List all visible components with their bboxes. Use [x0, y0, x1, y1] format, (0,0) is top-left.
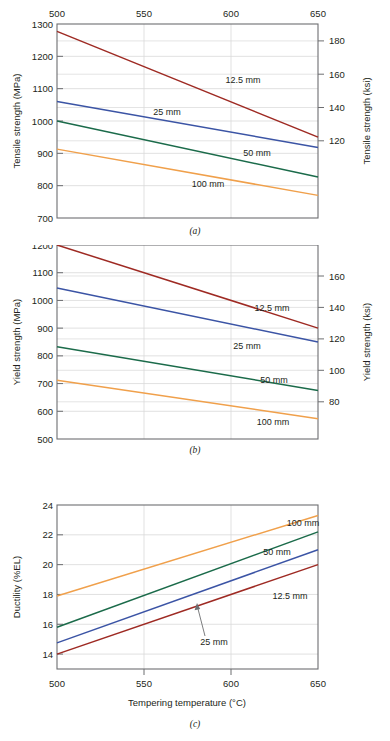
grid-horizontal-b [57, 273, 318, 412]
series-line-100mm [57, 149, 318, 195]
y2axis-ticks-b [318, 276, 324, 402]
y-tick-label: 900 [37, 323, 53, 334]
x-tick-label: 550 [136, 678, 152, 689]
chart-panel-b: 1200 1100 1000 900 800 700 600 500 160 1… [0, 245, 390, 493]
series-line-50mm [57, 121, 318, 177]
y2-tick-label: 80 [329, 396, 340, 407]
y2-tick-label: 120 [329, 135, 345, 146]
y2axis-ticks-a [318, 41, 324, 141]
y-tick-label: 1300 [32, 19, 53, 30]
y-tick-label: 22 [42, 529, 53, 540]
x-tick-label: 500 [49, 8, 65, 19]
series-label-25mm: 25 mm [233, 341, 261, 351]
y2-tick-label: 140 [329, 102, 345, 113]
series-label-50mm: 50 mm [263, 547, 291, 557]
series-label-100mm: 100 mm [192, 179, 225, 189]
series-label-12-5mm: 12.5 mm [272, 591, 307, 601]
chart-c-svg: 24 22 20 18 16 14 500 550 600 650 Ductil… [0, 493, 390, 741]
y2-axis-title: Yield strength (ksi) [361, 303, 372, 381]
y-tick-label: 800 [37, 180, 53, 191]
series-label-50mm: 50 mm [243, 148, 271, 158]
panel-caption-b: (b) [0, 445, 390, 455]
chart-b-svg: 1200 1100 1000 900 800 700 600 500 160 1… [0, 245, 390, 493]
plot-frame-c [57, 505, 318, 669]
y-tick-label: 1000 [32, 295, 53, 306]
y-tick-label: 1200 [32, 51, 53, 62]
chart-panel-a: 1300 1200 1100 1000 900 800 700 180 160 … [0, 0, 390, 245]
x-tick-label: 600 [223, 8, 239, 19]
y2-tick-label: 160 [329, 271, 345, 282]
y-tick-label: 16 [42, 619, 53, 630]
y-tick-label: 600 [37, 406, 53, 417]
panel-caption-a: (a) [0, 226, 390, 236]
y-axis-title: Ductility (%EL) [11, 556, 22, 618]
chart-a-svg: 1300 1200 1100 1000 900 800 700 180 160 … [0, 0, 390, 245]
grid-vertical-b [144, 245, 231, 439]
x-tick-label: 600 [223, 678, 239, 689]
series-label-12-5mm: 12.5 mm [225, 75, 260, 85]
y2-tick-label: 120 [329, 333, 345, 344]
series-label-25mm: 25 mm [153, 107, 181, 117]
y-tick-label: 500 [37, 434, 53, 445]
annotation-arrow-25mm [195, 603, 205, 636]
y-tick-label: 700 [37, 378, 53, 389]
y-tick-label: 1200 [32, 245, 53, 251]
y-tick-label: 24 [42, 500, 53, 511]
series-label-25mm: 25 mm [200, 637, 228, 647]
y-tick-label: 700 [37, 213, 53, 224]
y2-tick-label: 180 [329, 35, 345, 46]
series-label-50mm: 50 mm [260, 375, 288, 385]
y-axis-title: Yield strength (MPa) [11, 299, 22, 385]
panel-caption-c: (c) [0, 719, 390, 729]
series-line-12-5mm [57, 565, 318, 654]
x-tick-label: 650 [310, 678, 326, 689]
x-tick-label: 500 [49, 678, 65, 689]
grid-right-a [57, 41, 318, 141]
y-tick-label: 1100 [33, 267, 53, 278]
x-axis-title: Tempering temperature (°C) [128, 697, 246, 708]
y2-tick-label: 140 [329, 302, 345, 313]
y-tick-label: 20 [42, 559, 53, 570]
x-tick-label: 550 [136, 8, 152, 19]
y-tick-label: 800 [37, 350, 53, 361]
y2-axis-title: Tensile strength (ksi) [361, 77, 372, 164]
chart-panel-c: 24 22 20 18 16 14 500 550 600 650 Ductil… [0, 493, 390, 741]
y-tick-label: 1100 [33, 83, 53, 94]
figure-tempering-properties: 1300 1200 1100 1000 900 800 700 180 160 … [0, 0, 390, 741]
series-label-100mm: 100 mm [257, 417, 290, 427]
x-tick-label: 650 [310, 8, 326, 19]
plot-frame-b [57, 245, 318, 439]
yaxis-ticks-b [57, 273, 63, 412]
y-tick-label: 18 [42, 589, 53, 600]
y-tick-label: 14 [42, 649, 53, 660]
y-tick-label: 1000 [32, 116, 53, 127]
y2-tick-label: 160 [329, 69, 345, 80]
y-axis-title: Tensile strength (MPa) [11, 73, 22, 168]
series-label-100mm: 100 mm [287, 518, 320, 528]
y2-tick-label: 100 [329, 365, 345, 376]
series-label-12-5mm: 12.5 mm [254, 303, 289, 313]
y-tick-label: 900 [37, 148, 53, 159]
series-line-100mm [57, 380, 318, 419]
xaxis-ticks-c [144, 669, 231, 675]
